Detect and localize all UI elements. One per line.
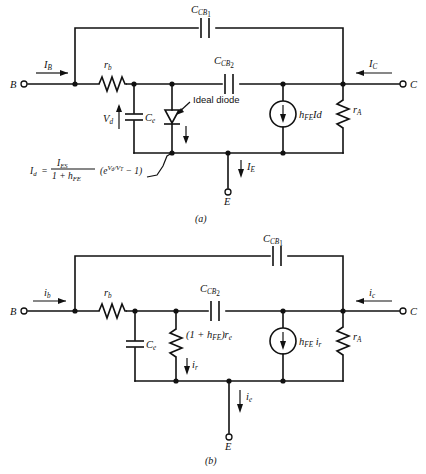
ie-label-b: ie	[246, 391, 253, 404]
re-resistor-b	[170, 329, 182, 357]
terminal-emitter-b[interactable]	[226, 434, 232, 440]
ra-resistor-b	[337, 327, 349, 355]
terminal-emitter-a[interactable]	[225, 189, 231, 195]
ib-arrow-head-a	[60, 70, 68, 76]
ra-resistor-a	[337, 100, 349, 128]
node-source-bottom-b	[280, 378, 285, 383]
source-label-b: hFE ir	[299, 336, 322, 349]
ccb1-left-wire-b	[75, 256, 270, 311]
node-base-b	[72, 308, 77, 313]
ce-label-a: Ce	[145, 112, 156, 125]
panel-b: CCB1 B C ib ic rb CCB2	[10, 233, 418, 467]
figure-canvas: CCB1 B C IB IC rb CCB2	[0, 0, 426, 474]
node-base-a	[72, 81, 77, 86]
vd-label-a: Vd	[103, 113, 113, 126]
terminal-base-label-a: B	[10, 79, 17, 90]
ib-arrow-head-b	[58, 298, 66, 304]
terminal-emitter-label-b: E	[224, 441, 232, 452]
ic-arrow-head-b	[356, 298, 364, 304]
equation-lhs-a: Id =	[29, 166, 48, 177]
terminal-emitter-label-a: E	[223, 196, 231, 207]
node-re-bottom-b	[173, 378, 178, 383]
re-label-b: (1 + hFE)re	[186, 329, 233, 342]
ir-arrow-head-b	[184, 366, 190, 375]
ic-arrow-head-a	[356, 70, 364, 76]
ib-label-a: IB	[43, 59, 53, 72]
panel-a: CCB1 B C IB IC rb CCB2	[10, 4, 418, 225]
ie-arrow-head-a	[238, 169, 244, 178]
ie-arrow-head-b	[237, 404, 243, 413]
rb-label-b: rb	[104, 287, 112, 300]
caption-b: (b)	[205, 455, 217, 467]
ce-label-b: Ce	[146, 339, 157, 352]
ra-label-b: rA	[353, 331, 362, 344]
equation-exponential-a: (eVd/VT − 1)	[100, 164, 142, 178]
rb-resistor-b	[99, 304, 127, 318]
terminal-collector-label-a: C	[410, 79, 418, 90]
ccb2-label-b: CCB2	[200, 283, 220, 298]
id-arrow-head-a	[183, 136, 189, 144]
terminal-collector-label-b: C	[410, 306, 418, 317]
terminal-base-b[interactable]	[21, 308, 27, 314]
terminal-collector-b[interactable]	[400, 308, 406, 314]
ccb1-right-wire-a	[216, 28, 343, 84]
diode-triangle-a	[165, 110, 179, 123]
terminal-collector-a[interactable]	[400, 81, 406, 87]
equation-numerator-a: IES	[56, 158, 68, 169]
ic-label-a: IC	[368, 58, 378, 71]
rb-resistor-a	[99, 77, 127, 91]
source-label-a: hFEId	[299, 109, 323, 122]
node-source-bottom-a	[280, 150, 285, 155]
ir-label-b: ir	[192, 359, 198, 372]
caption-a: (a)	[195, 213, 207, 225]
ccb1-label-b: CCB1	[263, 233, 283, 248]
equation-leader-a	[147, 153, 172, 177]
ccb2-label-a: CCB2	[214, 55, 234, 70]
terminal-base-label-b: B	[10, 306, 17, 317]
ra-label-a: rA	[353, 104, 362, 117]
rb-label-a: rb	[104, 59, 112, 72]
circuit-diagram-svg: CCB1 B C IB IC rb CCB2	[0, 0, 426, 474]
equation-denominator-a: 1 + hFE	[52, 171, 82, 182]
ccb1-left-wire-a	[75, 28, 198, 84]
terminal-base-a[interactable]	[21, 81, 27, 87]
ib-label-b: ib	[44, 287, 51, 300]
ideal-diode-label-a: Ideal diode	[193, 94, 239, 105]
vd-arrow-head-a	[116, 104, 122, 112]
ccb1-label-a: CCB1	[191, 4, 211, 19]
ie-label-a: IE	[246, 161, 256, 174]
ccb1-right-wire-b	[288, 256, 343, 311]
ic-label-b: ic	[369, 287, 376, 300]
